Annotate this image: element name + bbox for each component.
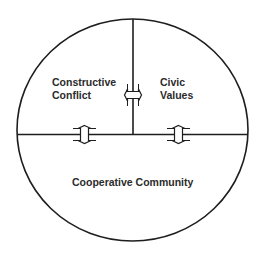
- region-label-constructive-conflict: Constructive Conflict: [52, 76, 116, 102]
- region-label-civic-values: Civic Values: [160, 76, 193, 102]
- region-label-line: Constructive: [52, 76, 116, 89]
- region-label-line: Cooperative Community: [72, 176, 193, 189]
- region-label-cooperative-community: Cooperative Community: [72, 176, 193, 189]
- circle-diagram: [0, 0, 261, 256]
- region-label-line: Conflict: [52, 89, 116, 102]
- region-label-line: Values: [160, 89, 193, 102]
- region-label-line: Civic: [160, 76, 193, 89]
